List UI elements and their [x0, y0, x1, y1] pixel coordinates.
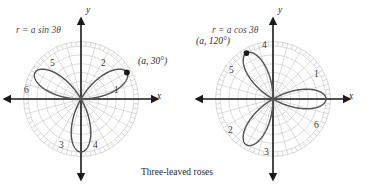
grid-tick [323, 117, 327, 119]
y-axis-arrow-down [77, 173, 85, 182]
grid-tick [287, 43, 288, 47]
grid-tick [133, 89, 137, 90]
grid-spoke [236, 62, 273, 99]
grid-tick [103, 147, 105, 151]
grid-tick [310, 136, 313, 139]
grid-tick [95, 150, 96, 154]
grid-tick [111, 52, 114, 56]
grid-tick [232, 58, 235, 61]
grid-tick [303, 142, 306, 146]
grid-tick [118, 136, 121, 139]
grid-tick [103, 47, 105, 51]
grid-tick [115, 140, 118, 143]
grid-tick [325, 89, 329, 90]
grid-tick [108, 49, 110, 53]
grid-tick [24, 108, 28, 109]
grid-tick [127, 126, 131, 128]
grid-tick [57, 47, 59, 51]
grid-tick [27, 117, 31, 119]
grid-spoke [273, 99, 310, 136]
grid-tick [219, 79, 223, 81]
grid-tick [323, 79, 327, 81]
grid-tick [48, 52, 51, 56]
grid-tick [129, 75, 133, 77]
grid-tick [61, 45, 63, 49]
grid-tick [216, 108, 220, 109]
grid-tick [291, 149, 293, 153]
equation-label-left: r = a sin 3θ [16, 26, 61, 36]
y-axis-label-right: y [278, 6, 282, 16]
grid-spoke [35, 99, 81, 126]
grid-tick [90, 151, 91, 155]
grid-tick [31, 126, 35, 128]
grid-tick [29, 121, 33, 123]
grid-tick [232, 136, 235, 139]
grid-tick [132, 113, 136, 114]
grid-tick [221, 121, 225, 123]
grid-tick [303, 52, 306, 56]
grid-tick [52, 145, 54, 149]
grid-tick [40, 58, 43, 61]
grid-spoke [236, 99, 273, 136]
grid-tick [129, 121, 133, 123]
grid-tick [321, 75, 325, 77]
grid-tick [223, 70, 227, 72]
grid-tick [240, 52, 243, 56]
grid-tick [325, 108, 329, 109]
petal-number-right-6: 6 [314, 121, 319, 131]
grid-tick [34, 66, 38, 69]
figure-caption: Three-leaved roses [141, 168, 213, 178]
grid-tick [29, 75, 33, 77]
grid-tick [324, 113, 328, 114]
grid-tick [48, 142, 51, 146]
grid-tick [291, 45, 293, 49]
x-axis-label-right: x [349, 92, 353, 102]
grid-spoke [81, 99, 127, 126]
grid-tick [66, 43, 67, 47]
grid-tick [314, 62, 317, 65]
grid-tick [95, 43, 96, 47]
grid-tick [131, 79, 135, 81]
y-axis-arrow-up [269, 17, 277, 26]
grid-tick [253, 149, 255, 153]
grid-tick [131, 117, 135, 119]
petal-number-left-5: 5 [50, 59, 55, 69]
grid-tick [122, 62, 125, 65]
grid-tick [71, 42, 72, 46]
y-axis-arrow-down [269, 173, 277, 182]
grid-tick [124, 129, 128, 132]
marked-point-left [124, 70, 130, 76]
grid-tick [90, 42, 91, 46]
grid-tick [295, 47, 297, 51]
grid-tick [300, 49, 302, 53]
grid-tick [295, 147, 297, 151]
grid-tick [282, 42, 283, 46]
petal-number-right-2: 2 [228, 126, 233, 136]
grid-tick [321, 121, 325, 123]
marked-point-right [244, 50, 250, 56]
grid-tick [27, 79, 31, 81]
petal-number-left-2: 2 [101, 59, 106, 69]
grid-tick [108, 145, 110, 149]
grid-tick [37, 133, 40, 136]
grid-tick [307, 140, 310, 143]
grid-tick [34, 129, 38, 132]
grid-tick [217, 113, 221, 114]
grid-tick [124, 66, 128, 69]
grid-tick [258, 150, 259, 154]
x-axis-label-left: x [157, 92, 161, 102]
grid-tick [223, 126, 227, 128]
grid-tick [40, 136, 43, 139]
grid-spoke [44, 99, 81, 136]
grid-tick [249, 47, 251, 51]
grid-tick [221, 75, 225, 77]
grid-tick [236, 140, 239, 143]
grid-tick [236, 55, 239, 58]
grid-tick [217, 84, 221, 85]
grid-tick [52, 49, 54, 53]
y-axis-arrow-up [77, 17, 85, 26]
point-label-right: (a, 120°) [196, 37, 230, 47]
three-leaved-roses-figure: r = a sin 3θyx(a, 30°)123456r = a cos 3θ… [0, 0, 367, 187]
polar-plot-left [3, 17, 160, 182]
grid-tick [300, 145, 302, 149]
